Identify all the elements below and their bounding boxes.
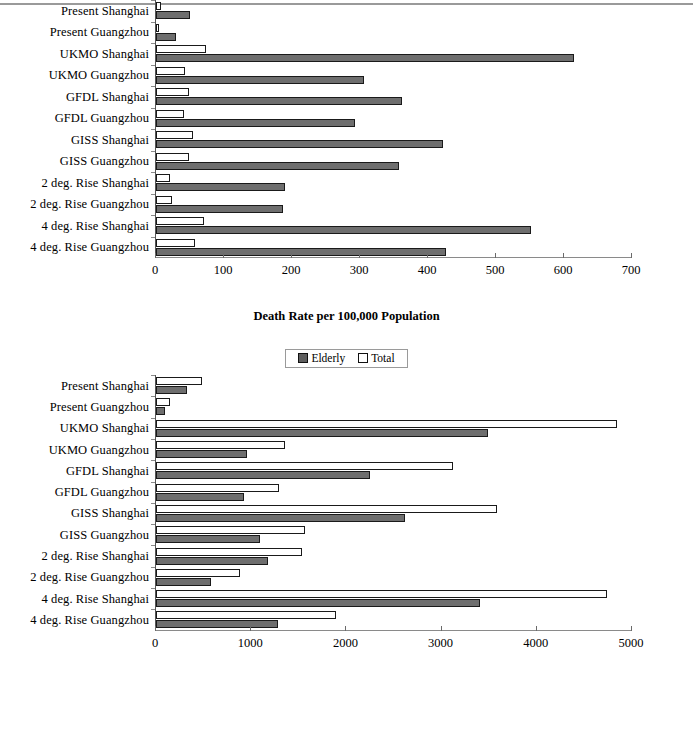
y-axis-tick bbox=[151, 237, 155, 238]
bar-elderly bbox=[156, 599, 480, 607]
bar-total bbox=[156, 548, 302, 556]
plot-area-raw-mortality: Present ShanghaiPresent GuangzhouUKMO Sh… bbox=[155, 375, 631, 631]
category-label: UKMO Shanghai bbox=[60, 421, 149, 436]
y-axis-tick bbox=[151, 129, 155, 130]
category-label: GISS Shanghai bbox=[71, 132, 149, 147]
x-axis-tick-label: 5000 bbox=[619, 636, 644, 651]
x-axis-tick bbox=[631, 253, 632, 258]
chart-category-row: 2 deg. Rise Shanghai bbox=[155, 545, 631, 566]
bar-total bbox=[156, 505, 497, 513]
bar-total bbox=[156, 110, 184, 118]
y-axis-tick bbox=[151, 439, 155, 440]
bar-elderly bbox=[156, 450, 247, 458]
chart-category-row: GISS Guangzhou bbox=[155, 151, 631, 173]
x-axis-tick-label: 0 bbox=[152, 263, 158, 278]
bar-elderly bbox=[156, 248, 446, 256]
category-label: GFDL Shanghai bbox=[66, 463, 149, 478]
category-label: 2 deg. Rise Shanghai bbox=[41, 549, 149, 564]
bar-total bbox=[156, 24, 159, 32]
chart-category-row: GFDL Guangzhou bbox=[155, 482, 631, 503]
y-axis-tick bbox=[151, 215, 155, 216]
bar-total bbox=[156, 569, 240, 577]
category-label: GISS Guangzhou bbox=[60, 154, 149, 169]
x-axis-tick-label: 400 bbox=[418, 263, 437, 278]
y-axis-tick bbox=[151, 418, 155, 419]
chart-category-row: UKMO Shanghai bbox=[155, 43, 631, 65]
y-axis-tick bbox=[151, 482, 155, 483]
x-axis-tick bbox=[427, 253, 428, 258]
legend-label-total: Total bbox=[371, 352, 394, 364]
chart-category-row: UKMO Shanghai bbox=[155, 418, 631, 439]
bar-total bbox=[156, 462, 453, 470]
y-axis-tick bbox=[151, 43, 155, 44]
category-label: UKMO Guangzhou bbox=[49, 442, 149, 457]
x-axis-tick bbox=[345, 626, 346, 631]
bar-elderly bbox=[156, 578, 211, 586]
legend-item-elderly: Elderly bbox=[298, 351, 345, 365]
category-label: 2 deg. Rise Guangzhou bbox=[30, 570, 149, 585]
chart-category-row: GISS Guangzhou bbox=[155, 524, 631, 545]
bar-total bbox=[156, 441, 285, 449]
bar-total bbox=[156, 239, 195, 247]
bar-total bbox=[156, 196, 172, 204]
y-axis-tick bbox=[151, 151, 155, 152]
bar-elderly bbox=[156, 11, 190, 19]
bar-elderly bbox=[156, 54, 574, 62]
chart-category-row: Present Guangzhou bbox=[155, 22, 631, 44]
chart-category-row: GISS Shanghai bbox=[155, 503, 631, 524]
category-label: UKMO Guangzhou bbox=[49, 68, 149, 83]
bar-total bbox=[156, 45, 206, 53]
x-axis-tick-label: 300 bbox=[350, 263, 369, 278]
x-axis-tick-label: 1000 bbox=[238, 636, 263, 651]
bar-elderly bbox=[156, 514, 405, 522]
bar-elderly bbox=[156, 471, 370, 479]
chart-category-row: 2 deg. Rise Guangzhou bbox=[155, 567, 631, 588]
x-axis-tick bbox=[631, 626, 632, 631]
bar-elderly bbox=[156, 535, 260, 543]
y-axis-tick bbox=[151, 172, 155, 173]
chart-category-row: Present Shanghai bbox=[155, 375, 631, 396]
bar-elderly bbox=[156, 76, 364, 84]
category-label: GFDL Shanghai bbox=[66, 89, 149, 104]
category-label: 4 deg. Rise Shanghai bbox=[41, 218, 149, 233]
chart-category-row: 4 deg. Rise Shanghai bbox=[155, 215, 631, 237]
x-axis-tick-label: 100 bbox=[214, 263, 233, 278]
legend-box: Elderly Total bbox=[285, 349, 407, 368]
bar-total bbox=[156, 611, 336, 619]
x-axis-tick bbox=[563, 253, 564, 258]
x-axis-tick bbox=[250, 626, 251, 631]
legend-label-elderly: Elderly bbox=[311, 352, 345, 364]
chart-category-row: UKMO Guangzhou bbox=[155, 439, 631, 460]
y-axis-tick bbox=[151, 194, 155, 195]
bar-total bbox=[156, 174, 170, 182]
y-axis-tick bbox=[151, 588, 155, 589]
x-axis-tick-label: 500 bbox=[486, 263, 505, 278]
chart-category-row: Present Shanghai bbox=[155, 0, 631, 22]
chart-category-row: UKMO Guangzhou bbox=[155, 65, 631, 87]
x-axis-tick-label: 2000 bbox=[333, 636, 358, 651]
bar-elderly bbox=[156, 162, 399, 170]
bar-total bbox=[156, 590, 607, 598]
category-label: 4 deg. Rise Guangzhou bbox=[30, 612, 149, 627]
legend-swatch-total-icon bbox=[358, 353, 368, 363]
y-axis-tick bbox=[151, 609, 155, 610]
y-axis-tick bbox=[151, 22, 155, 23]
bar-elderly bbox=[156, 33, 176, 41]
category-label: GFDL Guangzhou bbox=[55, 485, 149, 500]
chart-category-row: Present Guangzhou bbox=[155, 396, 631, 417]
bar-total bbox=[156, 217, 204, 225]
bar-elderly bbox=[156, 386, 187, 394]
bar-total bbox=[156, 88, 189, 96]
category-label: Present Guangzhou bbox=[50, 399, 149, 414]
chart-category-row: 4 deg. Rise Guangzhou bbox=[155, 609, 631, 630]
x-axis-tick-label: 3000 bbox=[428, 636, 453, 651]
legend-death-rate: Elderly Total bbox=[0, 348, 693, 368]
legend-swatch-elderly-icon bbox=[298, 353, 308, 363]
bar-total bbox=[156, 377, 202, 385]
chart-category-row: GFDL Guangzhou bbox=[155, 108, 631, 130]
x-axis-tick bbox=[155, 253, 156, 258]
y-axis-tick bbox=[151, 524, 155, 525]
category-label: Present Shanghai bbox=[61, 378, 149, 393]
y-axis-tick bbox=[151, 108, 155, 109]
x-axis-tick bbox=[441, 626, 442, 631]
